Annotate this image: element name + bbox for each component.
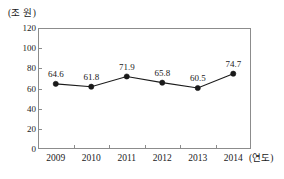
data-point-label: 60.5	[178, 74, 218, 83]
data-point-label: 74.7	[213, 60, 253, 69]
x-axis-tick-mark	[74, 145, 75, 149]
line-chart-figure: (조 원) 020406080100120 64.661.871.965.860…	[0, 0, 284, 179]
data-point-label: 65.8	[142, 69, 182, 78]
x-axis-tick-labels: 200920102011201220132014	[0, 152, 284, 168]
y-axis-tick-mark	[38, 68, 42, 69]
data-point-label: 64.6	[36, 70, 76, 79]
data-point-label: 61.8	[71, 73, 111, 82]
x-axis-tick-mark	[180, 145, 181, 149]
x-axis-unit-label: (연도)	[249, 152, 273, 164]
data-point-marker	[160, 80, 165, 85]
data-point-marker	[53, 81, 58, 86]
y-axis-tick-mark	[38, 129, 42, 130]
y-axis-tick-mark	[38, 48, 42, 49]
x-axis-tick-mark	[109, 145, 110, 149]
x-axis-tick-mark	[145, 145, 146, 149]
data-point-marker	[231, 71, 236, 76]
x-axis-tick-mark	[216, 145, 217, 149]
y-axis-tick-mark	[38, 89, 42, 90]
data-point-marker	[89, 84, 94, 89]
data-point-label: 71.9	[107, 63, 147, 72]
data-point-marker	[124, 74, 129, 79]
y-axis-tick-mark	[38, 109, 42, 110]
data-point-marker	[195, 85, 200, 90]
